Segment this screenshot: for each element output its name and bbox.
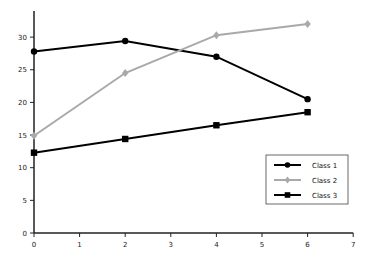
series-line [34, 41, 308, 99]
y-tick-label: 25 [18, 66, 27, 74]
x-tick-label: 4 [214, 241, 219, 249]
square-marker-icon [31, 149, 37, 155]
circle-marker-icon [31, 48, 37, 54]
circle-marker-icon [285, 162, 291, 168]
circle-marker-icon [213, 53, 219, 59]
y-tick-label: 10 [18, 164, 27, 172]
x-tick-label: 3 [169, 241, 173, 249]
line-chart: 05101520253001234567 Class 1Class 2Class… [0, 0, 366, 262]
y-tick-label: 0 [23, 230, 27, 238]
series-line [34, 112, 308, 152]
diamond-marker-icon [213, 31, 219, 39]
circle-marker-icon [122, 38, 128, 44]
legend: Class 1Class 2Class 3 [266, 155, 348, 204]
diamond-marker-icon [122, 69, 128, 77]
y-tick-label: 30 [18, 34, 27, 42]
legend-label: Class 2 [312, 177, 337, 185]
x-tick-label: 0 [32, 241, 36, 249]
square-marker-icon [122, 136, 128, 142]
x-tick-label: 5 [260, 241, 264, 249]
legend-label: Class 3 [312, 192, 337, 200]
x-tick-label: 7 [351, 241, 355, 249]
x-tick-label: 6 [305, 241, 310, 249]
diamond-marker-icon [31, 132, 37, 140]
circle-marker-icon [304, 96, 310, 102]
series-class-2 [31, 20, 311, 140]
legend-label: Class 1 [312, 162, 337, 170]
square-marker-icon [285, 192, 291, 198]
square-marker-icon [213, 122, 219, 128]
diamond-marker-icon [304, 20, 310, 28]
series-class-3 [31, 109, 311, 156]
x-tick-label: 2 [123, 241, 127, 249]
x-tick-label: 1 [77, 241, 81, 249]
y-tick-label: 20 [18, 99, 27, 107]
square-marker-icon [304, 109, 310, 115]
series-lines [31, 20, 311, 156]
y-tick-label: 15 [18, 132, 27, 140]
y-tick-label: 5 [23, 197, 27, 205]
series-class-1 [31, 38, 311, 103]
